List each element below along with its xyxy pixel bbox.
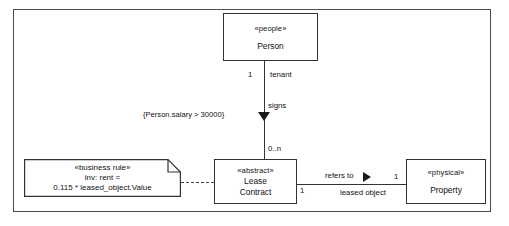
- class-person-stereotype: «people»: [254, 23, 286, 34]
- association-refers-to-target-multiplicity: 1: [394, 172, 398, 181]
- association-refers-to-target-role: leased object: [340, 188, 386, 197]
- association-signs-target-multiplicity: 0..n: [268, 144, 281, 153]
- association-signs-source-multiplicity: 1: [248, 70, 252, 79]
- association-signs-line[interactable]: [264, 61, 265, 159]
- note-business-rule[interactable]: «business rule» inv: rent = 0.115 * leas…: [24, 159, 181, 197]
- note-line-3: 0.115 * leased_object.Value: [53, 183, 151, 193]
- note-line-2: inv: rent =: [85, 173, 120, 183]
- filled-triangle-down-icon: [258, 112, 270, 121]
- note-anchor-dashed-line: [181, 182, 214, 183]
- class-property-stereotype: «physical»: [428, 167, 465, 178]
- note-business-rule-text: «business rule» inv: rent = 0.115 * leas…: [24, 159, 181, 197]
- association-refers-to-name: refers to: [325, 171, 354, 180]
- class-property-name: Property: [430, 185, 462, 196]
- note-stereotype: «business rule»: [74, 163, 130, 173]
- association-refers-to-line[interactable]: [297, 184, 406, 185]
- class-person[interactable]: «people» Person: [223, 13, 318, 61]
- association-signs-source-role: tenant: [270, 70, 292, 79]
- association-refers-to-source-multiplicity: 1: [300, 186, 304, 195]
- class-lease-contract-name-line2: Contract: [240, 187, 272, 198]
- class-lease-contract[interactable]: «abstract» Lease Contract: [214, 159, 297, 204]
- association-signs-name: signs: [268, 101, 286, 110]
- constraint-person-salary: {Person.salary > 30000}: [143, 110, 224, 119]
- class-person-name: Person: [257, 41, 284, 52]
- filled-triangle-right-icon: [363, 172, 371, 182]
- class-lease-contract-stereotype: «abstract»: [237, 165, 273, 176]
- class-lease-contract-name-line1: Lease: [244, 176, 267, 187]
- uml-class-diagram: «people» Person 1 tenant signs 0..n {Per…: [0, 0, 509, 226]
- class-property[interactable]: «physical» Property: [406, 159, 486, 204]
